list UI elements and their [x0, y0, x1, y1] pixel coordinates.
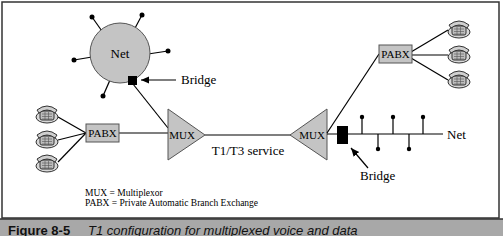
t1-t3-link-label: T1/T3 service — [212, 143, 285, 158]
phone-icon — [448, 21, 470, 38]
legend-pabx: PABX = Private Automatic Branch Exchange — [85, 198, 258, 208]
phone-icon — [448, 46, 470, 63]
bottom-bridge-icon — [337, 126, 348, 144]
caption-bar: Figure 8-5 T1 configuration for multiple… — [0, 219, 503, 236]
top-bridge-label: Bridge — [181, 72, 217, 87]
figure-frame — [2, 2, 499, 218]
network-diagram-figure: Net Bridge PABX MUX T1/T3 service MUX — [0, 0, 503, 236]
phone-icon — [36, 106, 58, 123]
figure-number: Figure 8-5 — [8, 223, 70, 236]
phone-icon — [448, 71, 470, 88]
right-mux-label: MUX — [299, 129, 325, 141]
legend-mux: MUX = Multiplexor — [85, 188, 163, 198]
phone-icon — [36, 131, 58, 148]
bus-network-label: Net — [447, 127, 466, 142]
top-bridge-icon — [128, 76, 137, 85]
phone-icon — [36, 155, 58, 172]
left-pabx-label: PABX — [88, 127, 116, 139]
figure-title: T1 configuration for multiplexed voice a… — [88, 223, 358, 236]
left-mux-label: MUX — [169, 129, 195, 141]
right-pabx-label: PABX — [381, 48, 409, 60]
net-cloud-label: Net — [111, 46, 130, 61]
bottom-bridge-label: Bridge — [360, 168, 396, 183]
